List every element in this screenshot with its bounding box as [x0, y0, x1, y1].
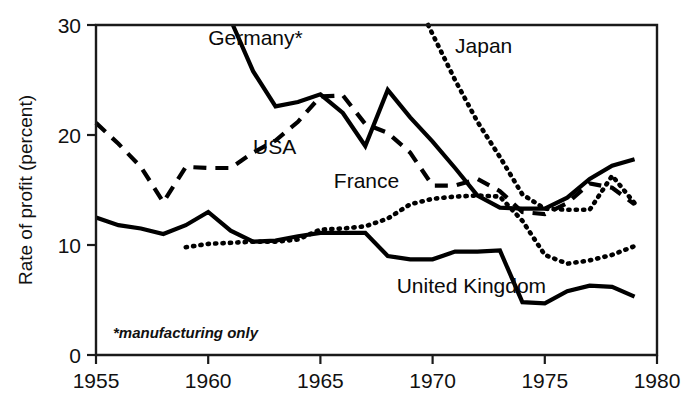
y-tick-label: 30 [58, 14, 81, 37]
series-label-japan: Japan [455, 34, 512, 57]
x-tick-label: 1960 [185, 369, 232, 392]
chart-figure: 1955196019651970197519800102030Germany*U… [0, 0, 694, 411]
series-label-united-kingdom: United Kingdom [397, 274, 546, 297]
series-label-usa: USA [253, 135, 296, 158]
series-layer [96, 25, 635, 303]
y-tick-label: 10 [58, 234, 81, 257]
y-tick-label: 0 [69, 344, 81, 367]
series-label-germany: Germany* [208, 26, 303, 49]
chart-footnote: *manufacturing only [113, 324, 259, 341]
chart-canvas: 1955196019651970197519800102030Germany*U… [0, 0, 694, 411]
series-line-france [186, 196, 635, 264]
y-axis-title: Rate of profit (percent) [15, 95, 36, 285]
y-tick-label: 20 [58, 124, 81, 147]
series-label-france: France [334, 169, 399, 192]
series-line-germany [233, 25, 635, 209]
x-tick-label: 1970 [409, 369, 456, 392]
x-tick-label: 1980 [634, 369, 681, 392]
series-line-usa [96, 95, 635, 214]
x-tick-label: 1975 [521, 369, 568, 392]
x-tick-label: 1955 [73, 369, 120, 392]
x-tick-label: 1965 [297, 369, 344, 392]
